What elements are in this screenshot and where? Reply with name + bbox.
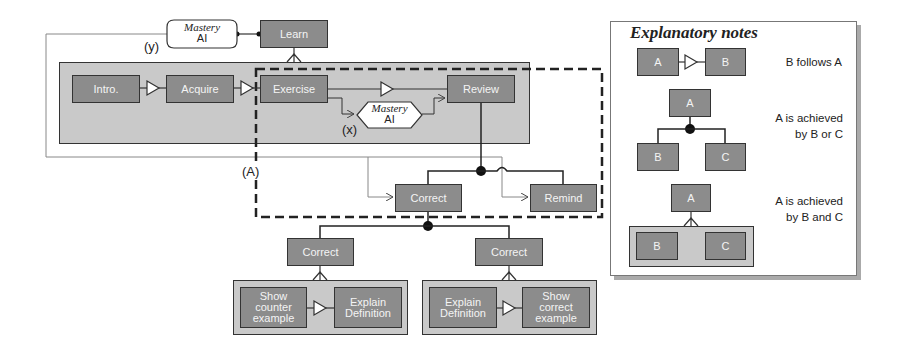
diagram-canvas: Learn Mastery AI (y) Intro. Acquire Exer…	[0, 0, 899, 355]
notes-connectors	[0, 0, 899, 355]
